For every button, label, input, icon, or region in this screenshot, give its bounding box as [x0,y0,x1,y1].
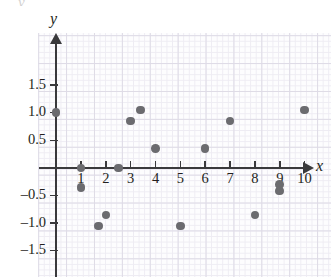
clipped-text-remnant: y [0,0,331,6]
graph-paper-grid [38,33,331,277]
y-axis-label: y [50,10,57,28]
